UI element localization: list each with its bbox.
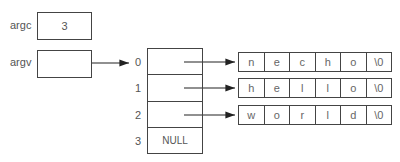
array-cell-2	[147, 102, 203, 128]
array-cell-0	[147, 48, 203, 75]
char-cell: l	[315, 79, 341, 97]
string-hello: h e l l o \0	[238, 78, 392, 98]
index-label-1: 1	[135, 83, 141, 94]
array-cell-3-null: NULL	[147, 128, 203, 154]
char-cell: o	[340, 79, 366, 97]
char-cell: r	[289, 106, 315, 124]
char-cell: d	[340, 106, 366, 124]
string-echo: n e c h o \0	[238, 52, 392, 72]
char-cell: l	[289, 79, 315, 97]
char-cell: e	[264, 79, 290, 97]
char-cell: h	[315, 53, 341, 71]
char-cell: w	[239, 106, 264, 124]
char-cell: l	[315, 106, 341, 124]
char-cell: o	[340, 53, 366, 71]
argv-array: NULL	[147, 48, 203, 154]
null-terminator-cell: \0	[366, 53, 392, 71]
index-label-0: 0	[135, 57, 141, 68]
argv-box	[37, 50, 92, 78]
char-cell: e	[264, 53, 290, 71]
index-label-2: 2	[135, 110, 141, 121]
string-world: w o r l d \0	[238, 105, 392, 125]
null-terminator-cell: \0	[366, 79, 392, 97]
argc-value: 3	[61, 20, 67, 32]
argc-box: 3	[37, 12, 92, 40]
char-cell: c	[289, 53, 315, 71]
char-cell: o	[264, 106, 290, 124]
index-label-3: 3	[135, 136, 141, 147]
null-terminator-cell: \0	[366, 106, 392, 124]
array-cell-1	[147, 75, 203, 102]
char-cell: h	[239, 79, 264, 97]
argv-label: argv	[10, 57, 31, 68]
char-cell: n	[239, 53, 264, 71]
argc-label: argc	[10, 20, 31, 31]
